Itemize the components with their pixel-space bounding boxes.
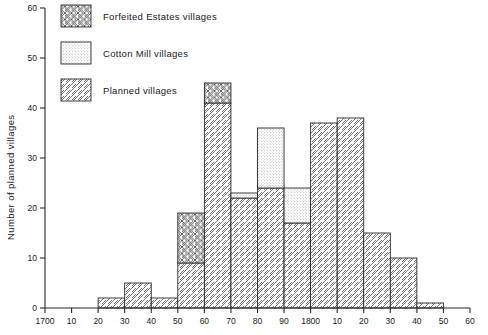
x-tick-label-1820: 20 bbox=[359, 316, 369, 326]
bar-segment-1800-diagonal-hatch bbox=[311, 123, 338, 308]
x-tick-label-1700: 1700 bbox=[36, 316, 55, 326]
bar-segment-1840-diagonal-hatch bbox=[417, 303, 444, 308]
bar-segment-1790-dotted-stipple bbox=[284, 188, 311, 223]
x-tick-label-1800: 1800 bbox=[301, 316, 320, 326]
bar-segment-1750-diagonal-hatch bbox=[178, 263, 205, 308]
x-tick-label-1860: 60 bbox=[465, 316, 475, 326]
y-tick-label-60: 60 bbox=[28, 3, 38, 13]
x-tick-label-1730: 30 bbox=[120, 316, 130, 326]
legend-label-forfeited-estates: Forfeited Estates villages bbox=[103, 11, 217, 22]
x-tick-label-1770: 70 bbox=[226, 316, 236, 326]
x-tick-label-1840: 40 bbox=[412, 316, 422, 326]
legend-swatch-cross-hatch bbox=[61, 5, 91, 27]
bar-segment-1820-diagonal-hatch bbox=[364, 233, 391, 308]
chart-legend: Forfeited Estates villages Cotton Mill v… bbox=[61, 5, 217, 101]
bar-segment-1720-diagonal-hatch bbox=[98, 298, 125, 308]
bar-segment-1760-diagonal-hatch bbox=[204, 103, 231, 308]
x-tick-label-1810: 10 bbox=[332, 316, 342, 326]
y-tick-label-20: 20 bbox=[28, 203, 38, 213]
legend-label-cotton-mill: Cotton Mill villages bbox=[103, 48, 188, 59]
bar-segment-1780-dotted-stipple bbox=[258, 128, 285, 188]
histogram-chart: Forfeited Estates villages Cotton Mill v… bbox=[0, 0, 488, 335]
x-tick-label-1720: 20 bbox=[93, 316, 103, 326]
bar-segment-1790-diagonal-hatch bbox=[284, 223, 311, 308]
y-tick-label-0: 0 bbox=[32, 303, 37, 313]
bar-segment-1760-cross-hatch bbox=[204, 83, 231, 103]
bar-segment-1830-diagonal-hatch bbox=[390, 258, 417, 308]
bar-segment-1770-dotted-stipple bbox=[231, 193, 258, 198]
bar-segment-1810-diagonal-hatch bbox=[337, 118, 364, 308]
x-tick-label-1850: 50 bbox=[439, 316, 449, 326]
bar-segment-1750-cross-hatch bbox=[178, 213, 205, 263]
plot-area: 0102030405060170010203040506070809018001… bbox=[28, 3, 475, 326]
legend-swatch-dotted bbox=[61, 42, 91, 64]
y-tick-label-50: 50 bbox=[28, 53, 38, 63]
x-tick-label-1710: 10 bbox=[67, 316, 77, 326]
x-tick-label-1760: 60 bbox=[200, 316, 210, 326]
x-tick-label-1790: 90 bbox=[279, 316, 289, 326]
x-tick-label-1750: 50 bbox=[173, 316, 183, 326]
x-tick-label-1830: 30 bbox=[386, 316, 396, 326]
bar-segment-1740-diagonal-hatch bbox=[151, 298, 178, 308]
y-axis-title: Number of planned villages bbox=[5, 114, 16, 240]
legend-swatch-hatch bbox=[61, 79, 91, 101]
legend-label-planned: Planned villages bbox=[103, 85, 177, 96]
bar-segment-1770-diagonal-hatch bbox=[231, 198, 258, 308]
bar-segment-1730-diagonal-hatch bbox=[125, 283, 152, 308]
chart-canvas: Forfeited Estates villages Cotton Mill v… bbox=[0, 0, 488, 335]
y-tick-label-30: 30 bbox=[28, 153, 38, 163]
legend-item-planned: Planned villages bbox=[61, 79, 177, 101]
legend-item-cotton-mill: Cotton Mill villages bbox=[61, 42, 188, 64]
x-tick-label-1740: 40 bbox=[147, 316, 157, 326]
y-tick-label-40: 40 bbox=[28, 103, 38, 113]
legend-item-forfeited-estates: Forfeited Estates villages bbox=[61, 5, 217, 27]
x-tick-label-1780: 80 bbox=[253, 316, 263, 326]
bar-segment-1780-diagonal-hatch bbox=[258, 188, 285, 308]
y-tick-label-10: 10 bbox=[28, 253, 38, 263]
